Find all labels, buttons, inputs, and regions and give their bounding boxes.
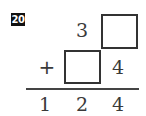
result-hundreds-digit: 1 xyxy=(35,94,55,114)
row2-ones-digit: 4 xyxy=(108,57,128,77)
row1-ones-answer-box[interactable] xyxy=(101,14,138,49)
problem-number-badge: 20 xyxy=(11,13,25,26)
result-ones-digit: 4 xyxy=(108,94,128,114)
result-tens-digit: 2 xyxy=(72,94,92,114)
sum-line xyxy=(26,88,139,90)
row2-tens-answer-box[interactable] xyxy=(64,50,101,84)
row1-tens-digit: 3 xyxy=(72,20,92,40)
plus-operator: + xyxy=(37,57,57,77)
